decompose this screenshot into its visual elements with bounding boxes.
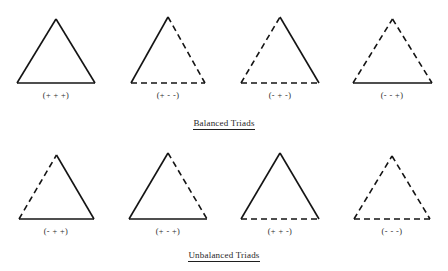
triad-label: (- + -) (269, 91, 292, 100)
triad-edge-right (168, 153, 207, 219)
triad-triangle (16, 152, 97, 222)
unbalanced-triad-row: (- + +)(+ - +)(+ + -)(- - -) (0, 150, 448, 236)
triad-triangle (128, 14, 208, 86)
triad-triangle (238, 150, 322, 222)
triad-edge-left (354, 156, 392, 219)
triad-edge-left (17, 19, 56, 83)
triad-balanced-3: (- + -) (227, 14, 333, 100)
triad-unbalanced-2: (+ - +) (115, 150, 221, 236)
triad-edge-right (56, 19, 95, 83)
triad-label: (+ + +) (43, 91, 70, 100)
triad-triangle (14, 16, 98, 86)
triad-edge-left (241, 153, 280, 219)
triad-label: (- - -) (382, 227, 403, 236)
triad-edge-right (280, 17, 319, 83)
triad-balanced-4: (- - +) (339, 16, 445, 100)
triad-edge-right (280, 153, 319, 219)
triad-triangle (351, 153, 433, 222)
triad-edge-left (19, 155, 57, 219)
triad-unbalanced-3: (+ + -) (227, 150, 333, 236)
unbalanced-triads-caption-text: Unbalanced Triads (188, 250, 259, 262)
triad-balance-figure: (+ + +)(+ - -)(- + -)(- - +) Balanced Tr… (0, 0, 448, 271)
triad-triangle (350, 16, 435, 86)
balanced-triads-caption: Balanced Triads (0, 118, 448, 128)
triad-edge-left (241, 17, 280, 83)
balanced-triad-row: (+ + +)(+ - -)(- + -)(- - +) (0, 14, 448, 100)
triad-triangle (126, 150, 210, 222)
triad-label: (+ + -) (268, 227, 293, 236)
triad-triangle (238, 14, 322, 86)
unbalanced-triads-caption: Unbalanced Triads (0, 250, 448, 260)
triad-edge-left (353, 19, 393, 83)
triad-label: (- + +) (44, 227, 69, 236)
triad-edge-right (392, 19, 432, 83)
triad-balanced-2: (+ - -) (115, 14, 221, 100)
balanced-triads-caption-text: Balanced Triads (193, 118, 254, 130)
triad-edge-right (56, 155, 94, 219)
triad-edge-right (168, 17, 205, 83)
triad-unbalanced-1: (- + +) (3, 152, 109, 236)
triad-edge-right (392, 156, 430, 219)
triad-unbalanced-4: (- - -) (339, 153, 445, 236)
triad-edge-left (131, 17, 168, 83)
triad-edge-left (129, 153, 168, 219)
triad-label: (+ - +) (156, 227, 181, 236)
triad-label: (- - +) (381, 91, 404, 100)
triad-label: (+ - -) (157, 91, 180, 100)
triad-balanced-1: (+ + +) (3, 16, 109, 100)
